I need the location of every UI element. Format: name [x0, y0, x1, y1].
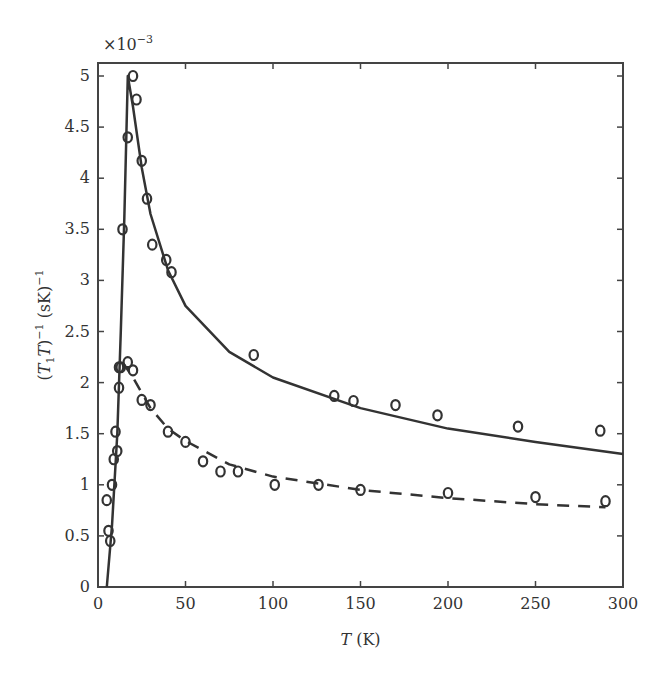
y-tick-label: 4 — [80, 168, 90, 187]
data-point-marker — [234, 467, 242, 477]
data-point-marker — [124, 132, 132, 142]
data-point-marker — [314, 480, 322, 490]
y-multiplier: ×10−3 — [103, 33, 153, 54]
x-tick-label: 250 — [520, 594, 551, 613]
y-tick-label: 0 — [80, 577, 90, 596]
x-tick-label: 50 — [175, 594, 195, 613]
data-point-marker — [391, 400, 399, 410]
data-point-marker — [601, 496, 609, 506]
y-tick-label: 1.5 — [65, 424, 90, 443]
data-point-marker — [433, 410, 441, 420]
x-tick-label: 0 — [93, 594, 103, 613]
data-point-marker — [118, 224, 126, 234]
y-axis-label: (T1T)−1 (sK)−1 — [33, 269, 57, 380]
data-point-marker — [148, 240, 156, 250]
y-tick-label: 0.5 — [65, 526, 90, 545]
data-point-marker — [103, 495, 111, 505]
y-tick-label: 4.5 — [65, 117, 90, 136]
x-tick-label: 150 — [345, 594, 376, 613]
data-point-marker — [199, 456, 207, 466]
data-point-marker — [250, 350, 258, 360]
data-point-marker — [514, 422, 522, 432]
solid-fit-curve — [107, 76, 623, 587]
data-point-marker — [216, 467, 224, 477]
data-point-marker — [531, 492, 539, 502]
x-tick-label: 300 — [608, 594, 639, 613]
x-axis-label: T (K) — [340, 630, 380, 649]
data-point-marker — [271, 480, 279, 490]
x-tick-label: 100 — [258, 594, 289, 613]
plot-frame — [98, 63, 623, 587]
y-tick-label: 3.5 — [65, 219, 90, 238]
data-point-marker — [444, 488, 452, 498]
y-tick-label: 2.5 — [65, 322, 90, 341]
data-point-marker — [129, 71, 137, 81]
y-tick-label: 5 — [80, 66, 90, 85]
data-point-marker — [129, 365, 137, 375]
y-tick-label: 2 — [80, 373, 90, 392]
data-point-marker — [596, 426, 604, 436]
y-tick-label: 1 — [80, 475, 90, 494]
x-tick-label: 200 — [433, 594, 464, 613]
y-tick-label: 3 — [80, 270, 90, 289]
chart: 05010015020025030000.511.522.533.544.55×… — [0, 0, 666, 679]
